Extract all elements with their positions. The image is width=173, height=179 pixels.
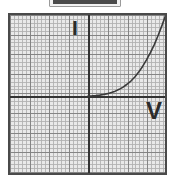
cropped-bar [49,0,121,7]
voltage-axis-line [10,96,165,98]
iv-characteristic-graph: I V [8,13,167,175]
voltage-axis-label: V [146,99,162,123]
current-axis-label: I [72,17,78,38]
current-axis-line [88,15,90,173]
cropped-bar-fill [53,0,117,4]
